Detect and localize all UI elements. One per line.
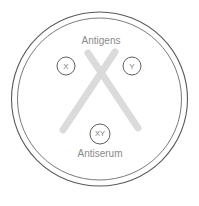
well-y-label: Y — [129, 62, 135, 71]
well-xy[interactable]: XY — [90, 124, 110, 144]
antiserum-label: Antiserum — [77, 148, 122, 159]
well-x[interactable]: X — [57, 57, 75, 75]
petri-dish-svg: Antigens X Y XY Antiserum — [0, 0, 199, 206]
immunodiffusion-diagram: Antigens X Y XY Antiserum — [0, 0, 199, 206]
well-y[interactable]: Y — [123, 57, 141, 75]
well-x-label: X — [63, 62, 69, 71]
antigens-label: Antigens — [82, 35, 121, 46]
well-xy-label: XY — [95, 129, 105, 138]
